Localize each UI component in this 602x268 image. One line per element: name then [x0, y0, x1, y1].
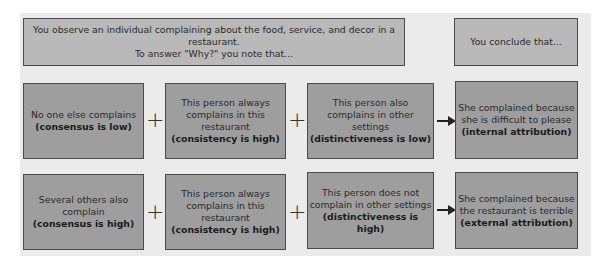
conclusion-text-1: She complained because [458, 193, 574, 205]
consistency-text-1: This person always [171, 97, 279, 109]
consensus-text-2: complain [33, 206, 134, 218]
observation-line-1: You observe an individual complaining ab… [24, 24, 404, 48]
distinctiveness-text-1: This person also [308, 97, 433, 109]
consistency-high-box: This person always complains in this res… [165, 83, 286, 159]
consistency-text-2: complains in this [171, 200, 279, 212]
consensus-text-1: Several others also [33, 194, 134, 206]
conclusion-header-text: You conclude that... [470, 36, 562, 48]
arrow-right-icon [437, 205, 457, 215]
consistency-text-1: This person always [171, 188, 279, 200]
consensus-label: (consensus is high) [33, 218, 134, 229]
internal-attribution-box: She complained because she is difficult … [455, 81, 578, 159]
consistency-text-3: restaurant [171, 121, 279, 133]
distinctiveness-text-2: complains in other settings [308, 109, 433, 133]
observation-line-2: To answer "Why?" you note that... [24, 48, 404, 60]
distinctiveness-label: (distinctiveness is low) [310, 133, 431, 144]
consensus-low-box: No one else complains (consensus is low) [23, 83, 144, 159]
observation-box: You observe an individual complaining ab… [23, 18, 405, 66]
consensus-label: (consensus is low) [35, 121, 132, 132]
conclusion-text-2: the restaurant is terrible [458, 205, 574, 217]
plus-icon: + [288, 201, 306, 223]
consistency-text-2: complains in this [171, 109, 279, 121]
arrow-right-icon [437, 116, 457, 126]
distinctiveness-low-box: This person also complains in other sett… [307, 83, 434, 159]
distinctiveness-text-1: This person does not [308, 187, 433, 199]
external-attribution-box: She complained because the restaurant is… [455, 172, 578, 249]
conclusion-label: (external attribution) [460, 217, 572, 228]
conclusion-text-1: She complained because [458, 102, 574, 114]
conclusion-header-box: You conclude that... [454, 18, 578, 66]
plus-icon: + [146, 109, 164, 131]
consistency-text-3: restaurant [171, 212, 279, 224]
distinctiveness-text-2: complain in other settings [308, 199, 433, 211]
conclusion-label: (internal attribution) [462, 126, 572, 137]
distinctiveness-label: (distinctiveness is high) [323, 211, 418, 234]
plus-icon: + [288, 109, 306, 131]
consistency-label: (consistency is high) [171, 224, 279, 235]
consensus-high-box: Several others also complain (consensus … [23, 174, 144, 250]
distinctiveness-high-box: This person does not complain in other s… [307, 172, 434, 249]
consensus-text: No one else complains [31, 109, 136, 121]
consistency-label: (consistency is high) [171, 133, 279, 144]
consistency-high-box: This person always complains in this res… [165, 174, 286, 250]
plus-icon: + [146, 201, 164, 223]
conclusion-text-2: she is difficult to please [458, 114, 574, 126]
